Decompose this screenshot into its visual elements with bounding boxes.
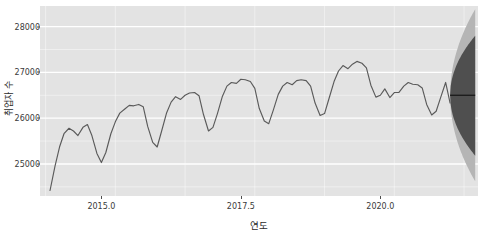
chart-container: 취업자 수 25000260002700028000 2015.02017.52… — [0, 0, 500, 236]
y-tick-label: 28000 — [4, 22, 40, 31]
y-axis-ticks: 25000260002700028000 — [0, 0, 40, 196]
x-tick-mark — [380, 196, 381, 199]
series-line — [50, 61, 450, 190]
x-tick-mark — [241, 196, 242, 199]
x-tick-mark — [101, 196, 102, 199]
plot-panel — [40, 6, 478, 196]
x-tick-label: 2017.5 — [211, 202, 271, 211]
gridlines — [40, 6, 478, 196]
y-tick-label: 27000 — [4, 68, 40, 77]
x-axis-label: 연도 — [40, 218, 478, 232]
x-tick-label: 2015.0 — [71, 202, 131, 211]
y-tick-label: 26000 — [4, 114, 40, 123]
x-tick-label: 2020.0 — [350, 202, 410, 211]
plot-svg — [40, 6, 478, 196]
y-tick-label: 25000 — [4, 159, 40, 168]
x-axis-ticks: 2015.02017.52020.0 — [0, 196, 500, 218]
